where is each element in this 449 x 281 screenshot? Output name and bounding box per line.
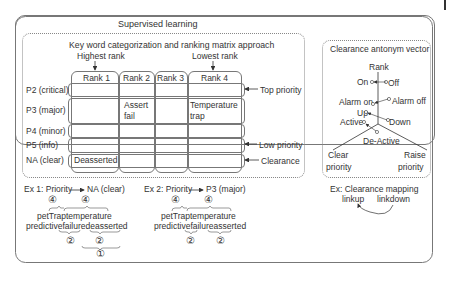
diagram-lines: [0, 0, 449, 281]
